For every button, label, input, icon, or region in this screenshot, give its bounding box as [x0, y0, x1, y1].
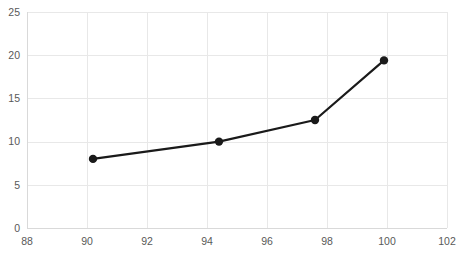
x-tick-label: 88	[21, 235, 33, 247]
y-tick-label: 15	[8, 92, 20, 104]
y-tick-label: 25	[8, 6, 20, 18]
data-point-marker	[215, 137, 223, 145]
chart-background	[0, 0, 460, 259]
data-point-marker	[311, 116, 319, 124]
x-tick-label: 102	[438, 235, 456, 247]
x-tick-label: 94	[201, 235, 213, 247]
data-point-marker	[89, 155, 97, 163]
y-tick-label: 5	[14, 179, 20, 191]
x-tick-label: 100	[378, 235, 396, 247]
x-tick-label: 90	[81, 235, 93, 247]
y-tick-label: 0	[14, 222, 20, 234]
data-point-marker	[380, 56, 388, 64]
x-tick-label: 96	[261, 235, 273, 247]
chart-canvas: 0510152025 889092949698100102	[0, 0, 460, 259]
y-tick-label: 20	[8, 49, 20, 61]
y-tick-label: 10	[8, 135, 20, 147]
x-tick-label: 92	[141, 235, 153, 247]
line-chart: 0510152025 889092949698100102	[0, 0, 460, 259]
x-tick-label: 98	[321, 235, 333, 247]
